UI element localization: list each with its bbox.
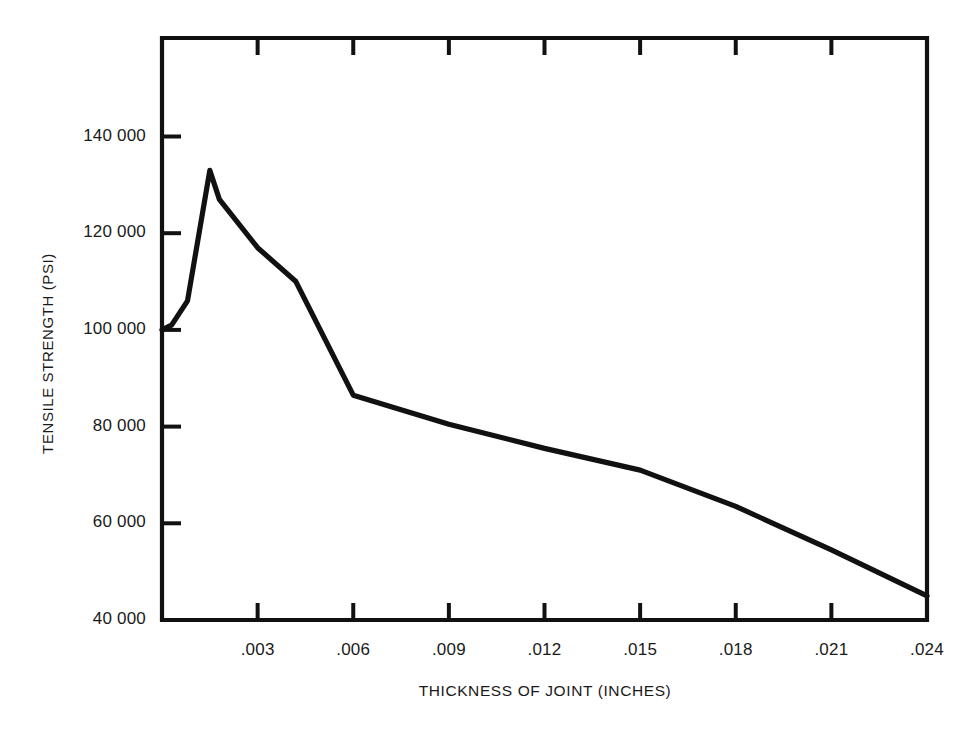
y-tick-label: 140 000: [4, 126, 146, 146]
y-tick-label: 120 000: [4, 222, 146, 242]
y-tick-label: 100 000: [4, 319, 146, 339]
y-tick-label: 60 000: [4, 512, 146, 532]
x-tick-label: .003: [213, 640, 303, 660]
x-tick-label: .024: [882, 640, 969, 660]
x-tick-label: .012: [500, 640, 590, 660]
x-tick-label: .018: [691, 640, 781, 660]
x-tick-label: .015: [595, 640, 685, 660]
y-tick-label: 40 000: [4, 609, 146, 629]
x-tick-label: .006: [308, 640, 398, 660]
x-axis-title: THICKNESS OF JOINT (INCHES): [162, 682, 928, 700]
x-tick-label: .021: [786, 640, 876, 660]
x-tick-label: .009: [404, 640, 494, 660]
y-axis-title: TENSILE STRENGTH (PSI): [39, 204, 56, 504]
chart-figure: 40 00060 00080 000100 000120 000140 000 …: [0, 0, 969, 736]
y-tick-label: 80 000: [4, 416, 146, 436]
